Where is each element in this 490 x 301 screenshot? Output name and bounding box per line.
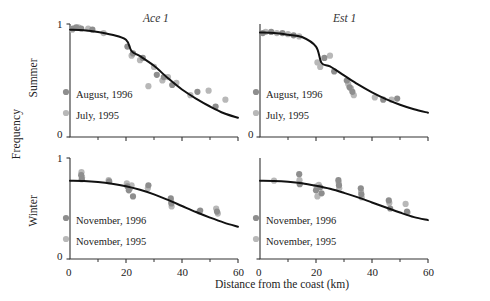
figure-container: Frequency Distance from the coast (km) A… [0,0,490,301]
plot-area-bottom-right [0,0,490,301]
